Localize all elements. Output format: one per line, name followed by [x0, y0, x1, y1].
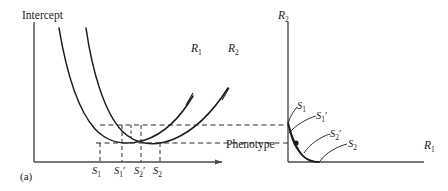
- curve-label-R1-base: R: [191, 42, 198, 54]
- left-x-axis-arrowhead: [215, 159, 222, 164]
- point-label-S2: S2: [348, 138, 357, 152]
- right-x-axis-label-sub: 1: [431, 145, 435, 154]
- leader-S2: [320, 144, 347, 161]
- x-tick-label-S1-prime: S1′: [114, 165, 125, 179]
- curve-label-R2: R2: [228, 42, 239, 57]
- x-tick-label-S2: S2: [153, 165, 162, 179]
- point-label-S1: S1: [297, 100, 306, 114]
- x-tick-S2p-prime: ′: [143, 165, 145, 176]
- curve-label-R1: R1: [191, 42, 202, 57]
- curve-label-R1-sub: 1: [198, 48, 202, 57]
- leader-R2: [222, 88, 229, 100]
- panel-label: (a): [20, 170, 32, 182]
- curve-R1: [59, 28, 193, 143]
- x-tick-S2-sub: 2: [158, 170, 162, 179]
- x-tick-S1-sub: 1: [97, 170, 101, 179]
- x-tick-label-S1: S1: [92, 165, 101, 179]
- frontier-curve-inner: [289, 126, 318, 162]
- x-tick-S1p-prime: ′: [123, 165, 125, 176]
- point-label-S1-prime: S1′: [316, 110, 327, 124]
- frontier-curve: [288, 122, 320, 162]
- right-x-axis-label-base: R: [424, 139, 431, 151]
- left-x-axis-label: Phenotype: [226, 138, 275, 150]
- x-tick-label-S2-prime: S2′: [134, 165, 145, 179]
- figure-panel-a: Intercept Phenotype (a) R1 R2 R2 R1 S1 S…: [0, 0, 448, 191]
- frontier-marked-point: [293, 140, 298, 145]
- point-label-S2-prime: S2′: [330, 128, 341, 142]
- right-x-axis-label: R1: [424, 139, 435, 154]
- left-y-axis-label: Intercept: [22, 9, 63, 21]
- leader-S2-prime: [304, 134, 330, 153]
- right-y-axis-label-sub: 2: [285, 15, 289, 24]
- point-S1-sub: 1: [302, 105, 306, 114]
- right-y-axis-label-base: R: [278, 9, 285, 21]
- figure-drawing: [0, 0, 448, 191]
- leader-S1: [288, 107, 297, 125]
- curve-label-R2-sub: 2: [235, 48, 239, 57]
- leader-S1-prime: [289, 116, 316, 133]
- point-S2p-prime: ′: [339, 128, 341, 139]
- point-S1p-prime: ′: [325, 110, 327, 121]
- right-y-axis-label: R2: [278, 9, 289, 24]
- curve-label-R2-base: R: [228, 42, 235, 54]
- curve-R2: [86, 28, 228, 144]
- point-S2-sub: 2: [353, 143, 357, 152]
